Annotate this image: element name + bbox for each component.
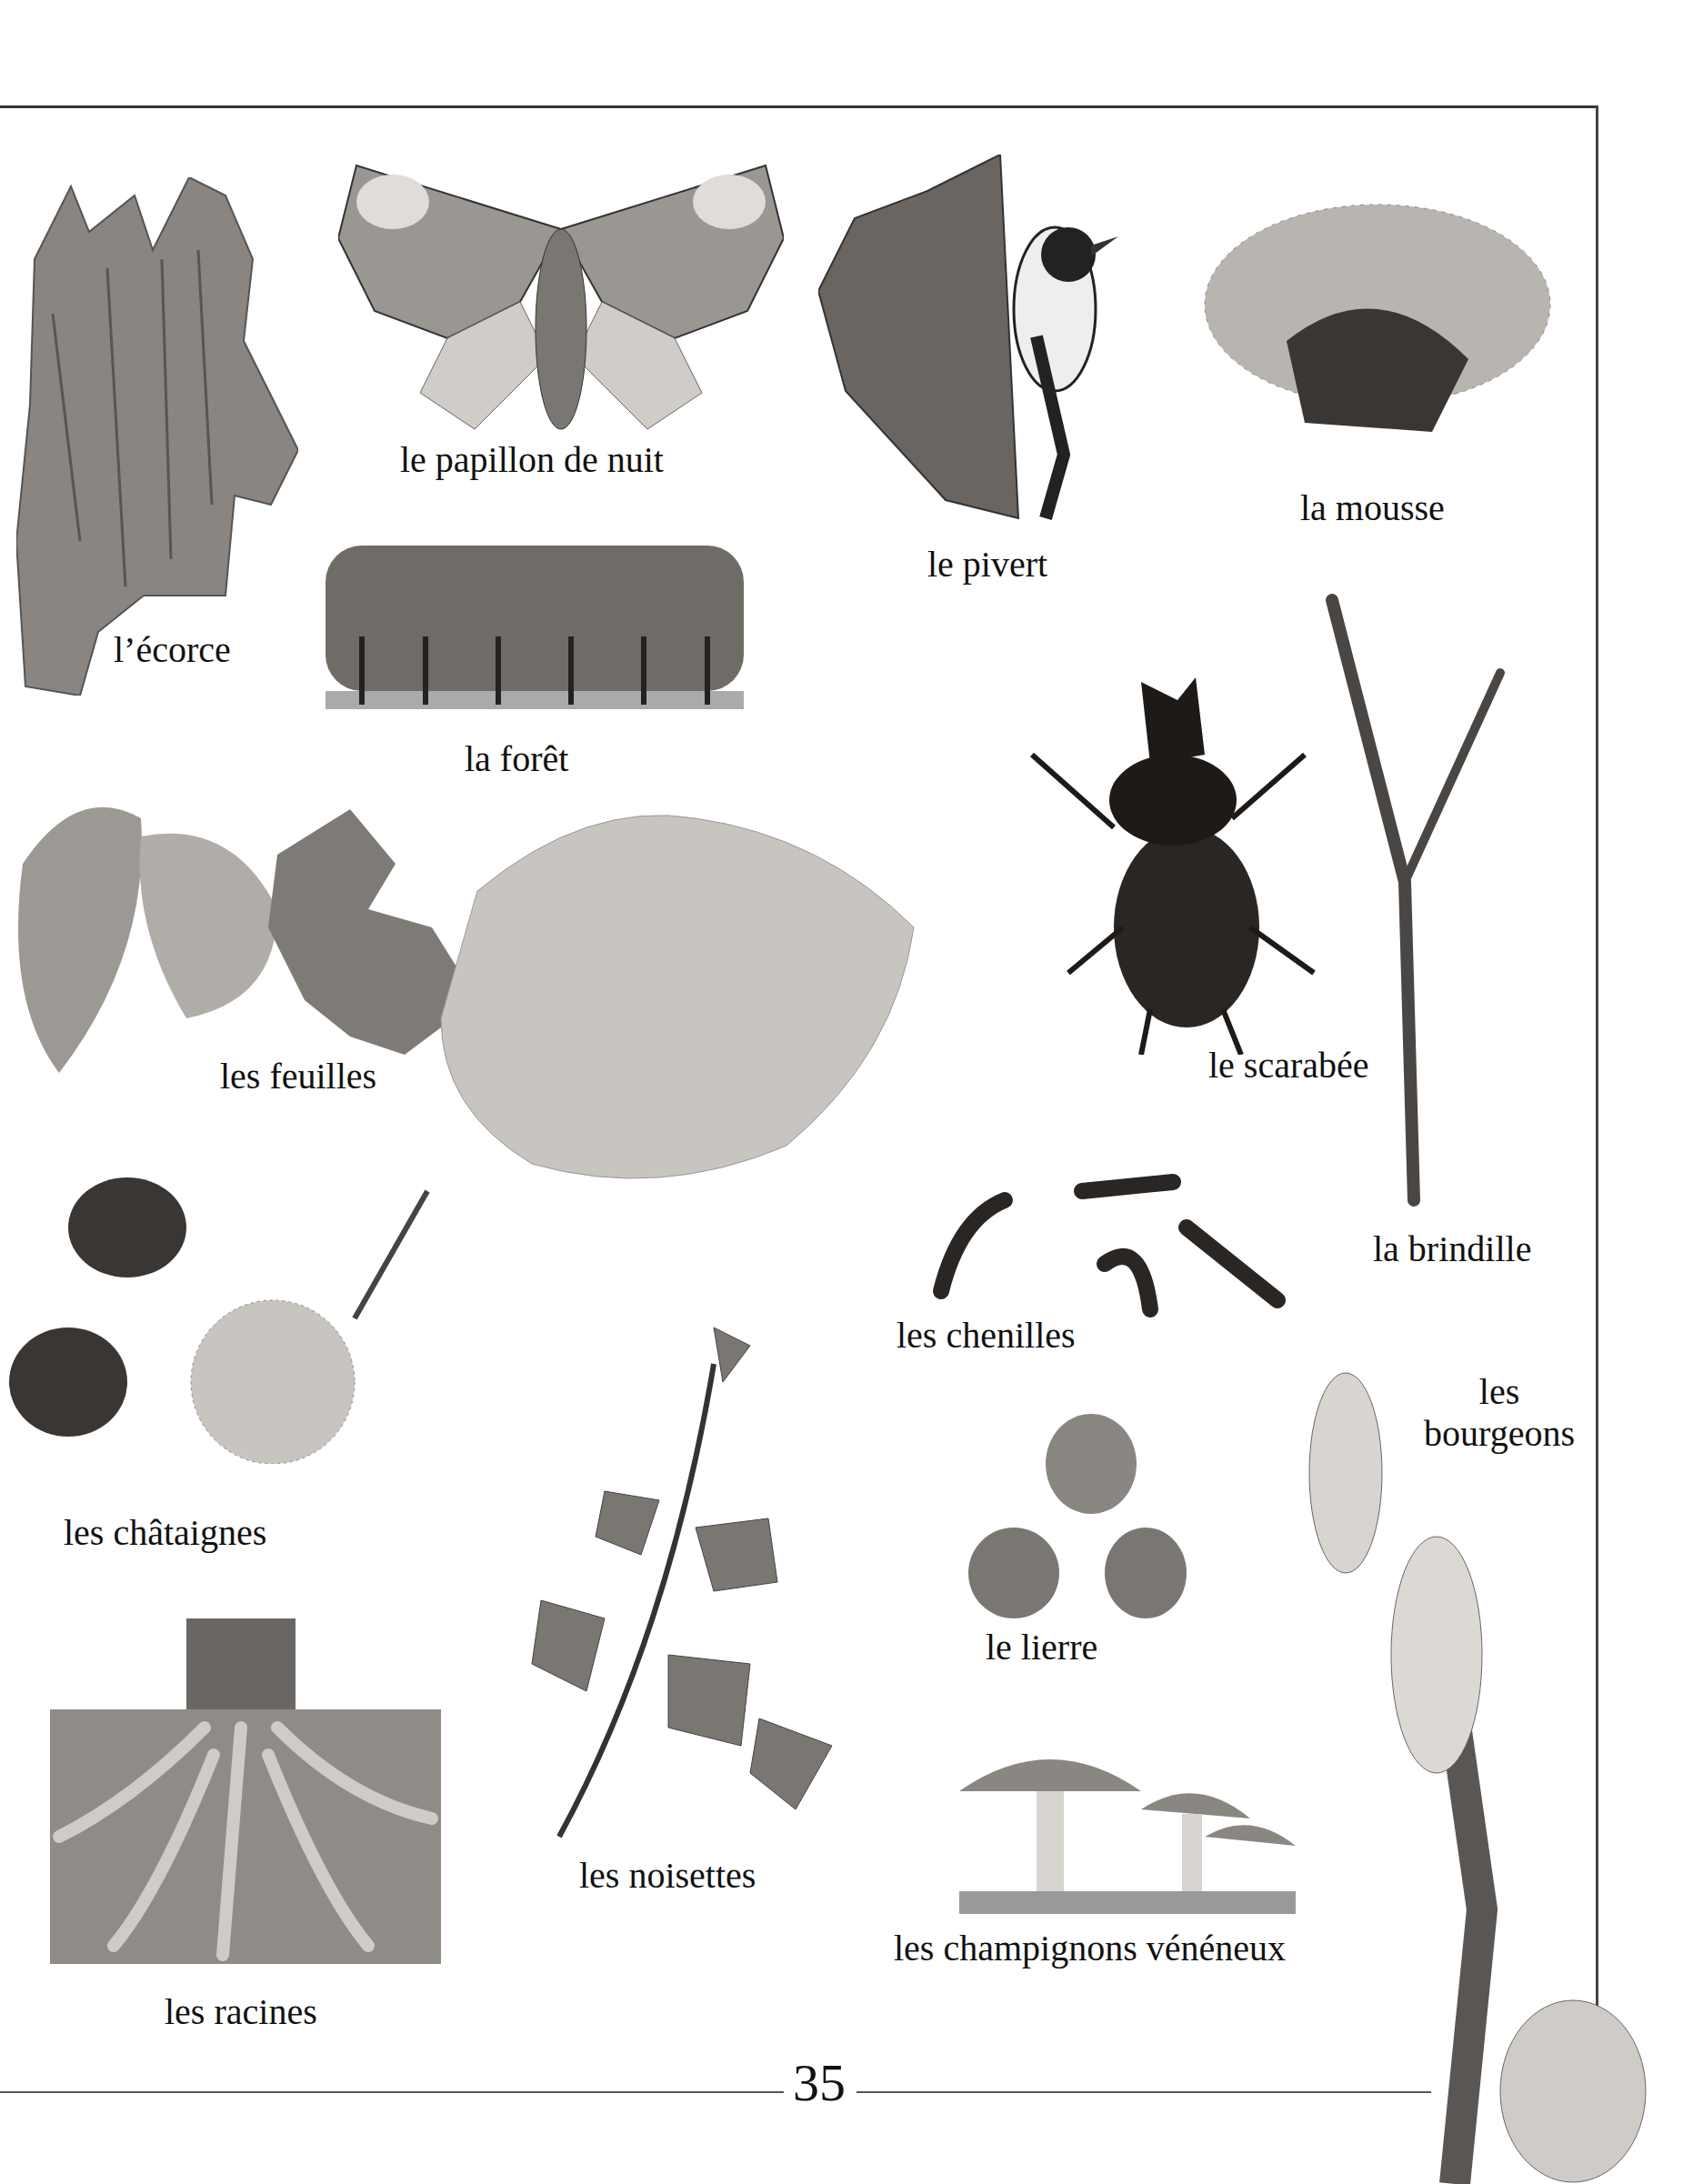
label-champignons: les champignons vénéneux [894, 1928, 1286, 1969]
label-pivert: le pivert [927, 544, 1047, 586]
chestnuts-illustration [9, 1173, 446, 1464]
moth-illustration [338, 156, 784, 438]
leaves-illustration [5, 727, 941, 1200]
hazelnuts-illustration [964, 1414, 1200, 1623]
label-chenilles: les chenilles [897, 1315, 1076, 1357]
moss-illustration [1196, 159, 1578, 450]
label-ecorce: l’écorce [114, 629, 231, 671]
bark-illustration [16, 177, 298, 696]
label-feuilles: les feuilles [220, 1056, 376, 1097]
page-number: 35 [793, 2057, 846, 2109]
buds-illustration [1273, 1364, 1693, 2184]
roots-illustration [23, 1618, 450, 1982]
label-racines: les racines [165, 1991, 317, 2033]
mushrooms-illustration [959, 1728, 1305, 1919]
label-mousse: la mousse [1300, 487, 1445, 529]
label-chataignes: les châtaignes [64, 1512, 266, 1554]
label-lierre: les noisettes [579, 1855, 756, 1897]
beetle-illustration [996, 664, 1359, 1055]
caterpillars-illustration [923, 1164, 1305, 1337]
twig-illustration [1318, 591, 1509, 1209]
top-rule [0, 105, 1598, 108]
ivy-illustration [486, 1273, 887, 1864]
forest-illustration [326, 527, 744, 718]
label-papillon: le papillon de nuit [400, 439, 664, 481]
label-noisettes: le lierre [986, 1627, 1097, 1668]
bottom-rule-left [0, 2091, 784, 2093]
woodpecker-illustration [818, 155, 1155, 536]
label-brindille: la brindille [1373, 1228, 1531, 1270]
